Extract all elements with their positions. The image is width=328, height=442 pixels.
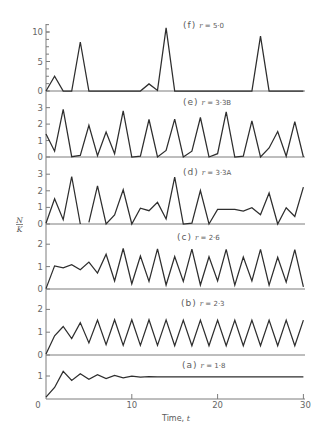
panel-tag: (f) xyxy=(183,20,196,30)
panel-value: = 2·3 xyxy=(203,300,224,308)
y-tick-label: 0 xyxy=(38,350,43,360)
panel-tag: (b) xyxy=(181,298,197,308)
y-tick-label: 1 xyxy=(38,371,43,381)
panel-value: = 3·3A xyxy=(205,169,231,177)
panel-b: (b)r = 2·3 012 xyxy=(38,298,305,360)
series-line xyxy=(46,28,303,91)
panel-e: (e)r = 3·3B 0123 xyxy=(38,97,305,162)
x-label-text: Time, xyxy=(161,414,187,423)
panel-label: (c)r = 2·6 xyxy=(177,232,220,242)
x-tick-label: 20 xyxy=(212,400,223,410)
panel-tag: (d) xyxy=(183,167,199,177)
panel-value: = 2·6 xyxy=(198,234,220,242)
x-tick-label: 30 xyxy=(300,400,311,410)
panel-label: (b)r = 2·3 xyxy=(181,298,225,308)
x-tick-label: 10 xyxy=(126,400,137,410)
y-tick-label: 1 xyxy=(38,202,43,212)
series-line xyxy=(46,177,80,225)
y-tick-label: 1 xyxy=(38,327,43,337)
y-label-denominator: K xyxy=(16,225,23,234)
panel-label: (a)r = 1·8 xyxy=(182,360,225,370)
population-dynamics-figure: (f)r = 5·0 0510 (e)r = 3·3B 0123 (d)r = … xyxy=(0,0,328,442)
panel-label: (f)r = 5·0 xyxy=(183,20,224,30)
y-tick-label: 3 xyxy=(38,169,43,179)
y-tick-label: 3 xyxy=(38,103,43,113)
panel-value: = 1·8 xyxy=(204,362,225,370)
y-tick-label: 0 xyxy=(38,152,43,162)
series-line xyxy=(46,371,303,397)
panel-value: = 3·3B xyxy=(205,99,231,107)
x-axis-label: Time, t xyxy=(161,414,191,423)
y-tick-label: 1 xyxy=(38,262,43,272)
y-axis-label: N K xyxy=(15,216,23,234)
y-tick-label: 2 xyxy=(38,119,43,129)
y-tick-label: 0 xyxy=(38,284,43,294)
y-tick-label: 2 xyxy=(38,304,43,314)
y-tick-label: 0 xyxy=(38,219,43,229)
panel-a: (a)r = 1·8 10102030 xyxy=(35,360,311,410)
series-line xyxy=(46,109,303,157)
y-tick-label: 2 xyxy=(38,239,43,249)
y-tick-label: 2 xyxy=(38,186,43,196)
series-line xyxy=(46,320,303,354)
x-tick-label: 0 xyxy=(35,400,40,410)
series-line xyxy=(89,177,304,224)
panel-label: (e)r = 3·3B xyxy=(183,97,231,107)
panel-c: (c)r = 2·6 012 xyxy=(38,232,305,294)
y-tick-label: 5 xyxy=(38,57,43,67)
panel-label: (d)r = 3·3A xyxy=(183,167,232,177)
series-line xyxy=(46,249,303,289)
panel-d: (d)r = 3·3A 0123 xyxy=(38,167,305,229)
panel-tag: (e) xyxy=(183,97,199,107)
y-tick-label: 10 xyxy=(32,27,43,37)
panel-tag: (a) xyxy=(182,360,198,370)
y-label-numerator: N xyxy=(15,216,23,225)
x-label-variable: t xyxy=(187,414,191,423)
panel-f: (f)r = 5·0 0510 xyxy=(32,20,305,96)
y-tick-label: 1 xyxy=(38,136,43,146)
y-tick-label: 0 xyxy=(38,86,43,96)
panel-tag: (c) xyxy=(177,232,192,242)
panel-value: = 5·0 xyxy=(203,22,224,30)
